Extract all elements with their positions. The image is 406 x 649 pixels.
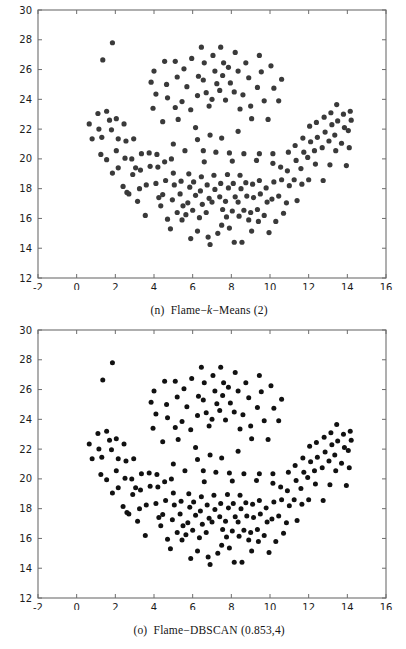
caption-dbscan-suffix: (0.853,4) (241, 624, 285, 636)
data-point (256, 539, 261, 544)
data-point (122, 156, 127, 161)
data-point (180, 203, 185, 208)
data-point (116, 456, 121, 461)
data-point (198, 188, 203, 193)
data-point (219, 135, 224, 140)
data-point (107, 438, 112, 443)
data-point (158, 203, 163, 208)
data-point (164, 402, 169, 407)
data-point (191, 179, 196, 184)
y-tick-label: 20 (19, 153, 32, 164)
data-point (346, 128, 351, 133)
data-point (201, 468, 206, 473)
data-point (164, 82, 169, 87)
data-point (204, 410, 209, 415)
data-point (180, 419, 185, 424)
data-point (104, 429, 109, 434)
data-point (175, 530, 180, 535)
data-point (178, 511, 183, 516)
data-point (254, 158, 259, 163)
data-point (327, 482, 332, 487)
y-tick-label: 26 (19, 384, 32, 395)
data-point (299, 502, 304, 507)
data-point (321, 178, 326, 183)
data-point (231, 501, 236, 506)
data-point (257, 498, 262, 503)
data-point (185, 200, 190, 205)
data-point (196, 394, 201, 399)
data-point (349, 118, 354, 123)
data-point (348, 429, 353, 434)
data-point (207, 103, 212, 108)
data-point (131, 136, 136, 141)
data-point (224, 534, 229, 539)
data-point (100, 57, 105, 62)
data-point (160, 439, 165, 444)
data-point (143, 213, 148, 218)
data-point (179, 499, 184, 504)
data-point (181, 386, 186, 391)
data-point (256, 219, 261, 224)
data-point (292, 497, 297, 502)
data-point (265, 117, 270, 122)
data-point (171, 491, 176, 496)
data-point (328, 430, 333, 435)
data-point (236, 389, 241, 394)
data-point (306, 497, 311, 502)
data-point (218, 501, 223, 506)
data-point (201, 77, 206, 82)
data-point (228, 80, 233, 85)
x-tick-label: 2 (112, 282, 118, 290)
data-point (312, 468, 317, 473)
x-tick-label: 14 (341, 282, 354, 290)
data-point (179, 99, 184, 104)
data-point (176, 117, 181, 122)
data-point (87, 441, 92, 446)
data-point (248, 210, 253, 215)
data-point (171, 141, 176, 146)
y-tick-label: 20 (19, 473, 32, 484)
data-point (110, 40, 115, 45)
data-point (139, 471, 144, 476)
data-point (271, 499, 276, 504)
data-point (284, 520, 289, 525)
data-point (202, 60, 207, 65)
data-point (207, 132, 212, 137)
data-point (255, 207, 260, 212)
data-point (241, 208, 246, 213)
data-point (236, 199, 241, 204)
data-point (195, 457, 200, 462)
data-point (189, 376, 194, 381)
data-point (239, 506, 244, 511)
data-point (333, 468, 338, 473)
y-tick-label: 30 (19, 325, 32, 336)
data-point (224, 214, 229, 219)
data-point (123, 138, 128, 143)
data-point (344, 483, 349, 488)
data-point (255, 527, 260, 532)
data-point (120, 184, 125, 189)
data-point (205, 182, 210, 187)
data-point (169, 156, 174, 161)
data-point (210, 520, 215, 525)
x-tick-label: 2 (112, 602, 118, 610)
plot-frame (38, 330, 386, 598)
caption-kmeans-main-after: −Means (212, 304, 250, 316)
data-point (200, 522, 205, 527)
data-point (212, 68, 217, 73)
data-point (226, 385, 231, 390)
data-point (262, 418, 267, 423)
data-point (124, 190, 129, 195)
data-point (231, 181, 236, 186)
data-point (90, 456, 95, 461)
data-point (264, 505, 269, 510)
data-point (144, 182, 149, 187)
x-tick-label: 6 (189, 602, 195, 610)
data-point (114, 148, 119, 153)
y-tick-label: 22 (19, 444, 32, 455)
data-point (314, 120, 319, 125)
data-point (279, 77, 284, 82)
data-point (285, 168, 290, 173)
data-point (210, 373, 215, 378)
data-point (270, 151, 275, 156)
